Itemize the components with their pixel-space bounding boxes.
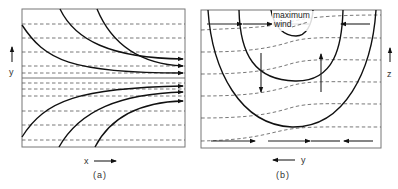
panel-a-x-label: x	[84, 156, 89, 166]
panel-b-caption: (b)	[276, 170, 290, 180]
panel-b: maximum wind z y (b)	[201, 10, 392, 180]
panel-b-z-label: z	[387, 69, 392, 79]
panel-a-y-label: y	[9, 67, 14, 77]
panel-b-vertical-motion	[261, 53, 321, 92]
panel-b-isentropes	[201, 15, 381, 141]
panel-a-isotherms	[22, 24, 185, 140]
panel-a-x-axis-indicator: x	[84, 156, 116, 166]
panel-b-z-axis-indicator: z	[387, 48, 392, 79]
panel-a: y x (a)	[9, 9, 185, 180]
max-wind-label-line2: wind	[273, 19, 292, 29]
panel-b-y-axis-indicator: y	[273, 155, 306, 165]
panel-a-caption: (a)	[93, 170, 107, 180]
panel-b-y-label: y	[301, 155, 306, 165]
frontogenesis-figure: y x (a)	[0, 0, 398, 189]
panel-a-y-axis-indicator: y	[9, 47, 14, 77]
